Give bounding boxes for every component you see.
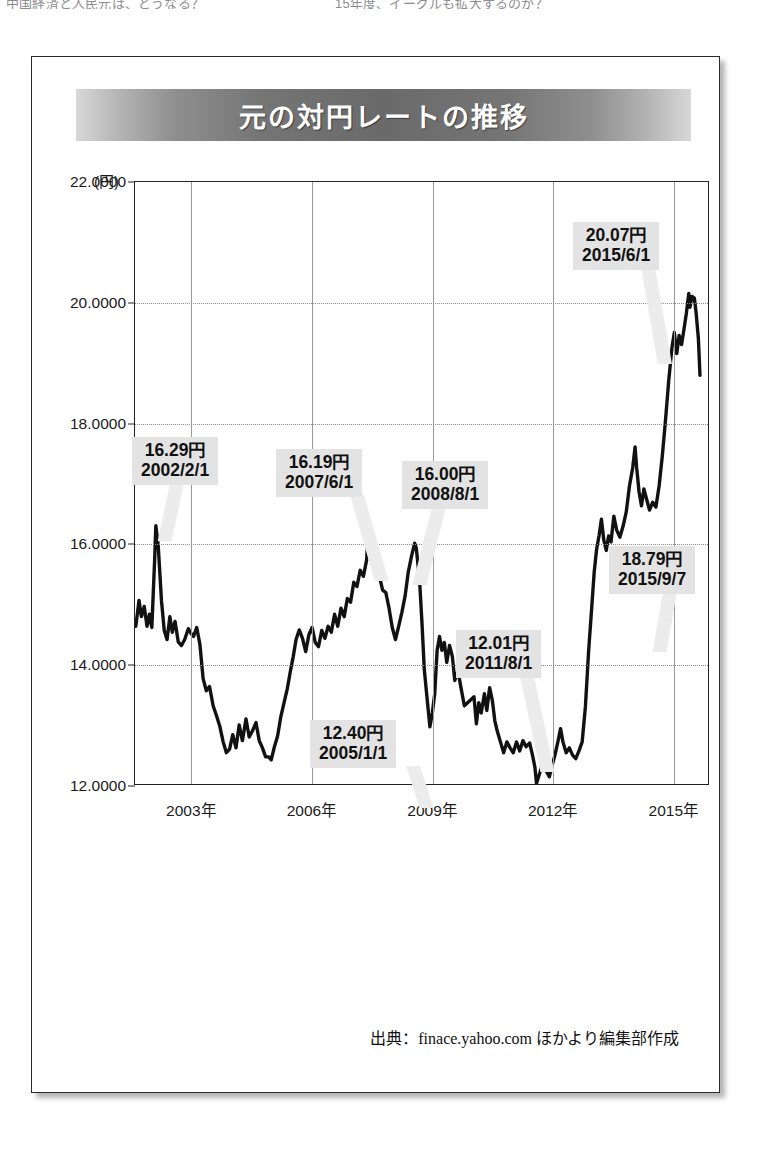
x-axis-tick-label: 2003年 — [166, 798, 216, 820]
chart-title-banner: 元の対円レートの推移 — [76, 89, 691, 141]
annotation-date: 2011/8/1 — [465, 653, 532, 673]
y-axis-tick-mark — [128, 786, 135, 787]
top-fragment-left: 中国経済と人民元は、どうなる？ — [6, 0, 204, 9]
y-axis-tick-mark — [128, 302, 135, 303]
annotation-value: 18.79円 — [618, 549, 686, 569]
annotation-callout: 18.79円2015/9/7 — [609, 546, 695, 594]
gridline-horizontal — [135, 303, 708, 304]
y-axis-tick-mark — [128, 665, 135, 666]
y-axis-tick-mark — [128, 544, 135, 545]
y-axis-tick-label: 14.0000 — [70, 656, 126, 674]
annotation-value: 16.29円 — [141, 440, 209, 460]
annotation-date: 2005/1/1 — [319, 743, 387, 763]
annotation-date: 2008/8/1 — [411, 484, 479, 504]
y-axis-tick-label: 18.0000 — [70, 415, 126, 433]
gridline-horizontal — [135, 665, 708, 666]
annotation-callout: 16.19円2007/6/1 — [276, 449, 362, 497]
annotation-value: 16.19円 — [285, 452, 353, 472]
gridline-vertical — [553, 182, 554, 784]
annotation-callout: 16.29円2002/2/1 — [132, 437, 218, 485]
gridline-horizontal — [135, 424, 708, 425]
x-axis-tick-label: 2012年 — [528, 798, 578, 820]
y-axis-tick-label: 12.0000 — [70, 777, 126, 795]
x-axis-tick-label: 2006年 — [287, 798, 337, 820]
annotation-value: 16.00円 — [411, 464, 479, 484]
annotation-date: 2002/2/1 — [141, 460, 209, 480]
figure-frame: 元の対円レートの推移 (円) 22.000020.000018.000016.0… — [31, 56, 720, 1093]
y-axis-tick-label: 22.0000 — [70, 173, 126, 191]
annotation-date: 2015/6/1 — [582, 245, 650, 265]
page-top-text-fragment: 中国経済と人民元は、どうなる？ 15年度、イーグルも拡大するのか？ — [0, 0, 759, 9]
x-axis-tick-label: 2015年 — [649, 798, 699, 820]
annotation-date: 2015/9/7 — [618, 569, 686, 589]
annotation-value: 12.01円 — [465, 633, 532, 653]
annotation-callout: 16.00円2008/8/1 — [402, 461, 488, 509]
x-axis-tick-label: 2009年 — [407, 798, 457, 820]
annotation-date: 2007/6/1 — [285, 472, 353, 492]
gridline-vertical — [674, 182, 675, 784]
annotation-value: 12.40円 — [319, 723, 387, 743]
annotation-callout: 20.07円2015/6/1 — [573, 222, 659, 270]
source-credit: 出典：finace.yahoo.com ほかより編集部作成 — [32, 1025, 679, 1049]
annotation-callout: 12.01円2011/8/1 — [456, 630, 541, 678]
annotation-value: 20.07円 — [582, 225, 650, 245]
y-axis-tick-label: 20.0000 — [70, 294, 126, 312]
y-axis-tick-label: 16.0000 — [70, 535, 126, 553]
annotation-callout: 12.40円2005/1/1 — [310, 720, 396, 768]
y-axis-tick-mark — [128, 423, 135, 424]
page-title: 元の対円レートの推移 — [239, 96, 529, 135]
y-axis-tick-mark — [128, 182, 135, 183]
top-fragment-right: 15年度、イーグルも拡大するのか？ — [335, 0, 548, 9]
